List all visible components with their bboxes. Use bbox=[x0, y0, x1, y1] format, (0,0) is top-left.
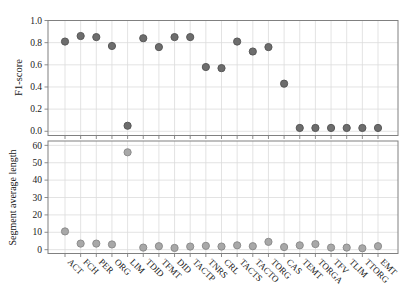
seglen-data-point-FCH bbox=[77, 240, 84, 247]
y-tick-label: 0.8 bbox=[30, 38, 42, 48]
seglen-data-point-TORG bbox=[265, 238, 272, 245]
f1-data-point-TFV bbox=[327, 124, 334, 131]
x-tick-label-FCH: FCH bbox=[81, 257, 101, 277]
y-axis-label-segment-average-length: Segment average length bbox=[7, 141, 20, 254]
f1-data-point-TNRS bbox=[202, 63, 209, 70]
f1-data-point-PER bbox=[93, 34, 100, 41]
x-tick-label-LIM: LIM bbox=[128, 257, 147, 276]
y-tick-label: 30 bbox=[33, 193, 43, 203]
seglen-data-point-CAS bbox=[281, 243, 288, 250]
seglen-data-point-LIM bbox=[124, 149, 131, 156]
seglen-data-point-EMT bbox=[374, 243, 381, 250]
seglen-data-point-TDID bbox=[140, 244, 147, 251]
seglen-data-point-ACT bbox=[61, 228, 68, 235]
seglen-data-point-TACTS bbox=[234, 242, 241, 249]
f1-data-point-ORG bbox=[108, 42, 115, 49]
figure: 1.00.80.60.40.20.06050403020100ACTFCHPER… bbox=[0, 0, 419, 307]
y-tick-label: 0.0 bbox=[30, 126, 42, 136]
f1-data-point-CRL bbox=[218, 65, 225, 72]
y-tick-label: 0.4 bbox=[30, 82, 42, 92]
y-tick-label: 60 bbox=[33, 141, 43, 151]
f1-data-point-FCH bbox=[77, 32, 84, 39]
f1-data-point-TEMT bbox=[296, 124, 303, 131]
seglen-data-point-TLIM bbox=[343, 244, 350, 251]
plot-frame bbox=[48, 21, 398, 136]
y-tick-label: 0 bbox=[37, 245, 42, 255]
f1-data-point-TORGA bbox=[312, 124, 319, 131]
seglen-data-point-DID bbox=[171, 244, 178, 251]
y-tick-label: 10 bbox=[33, 227, 43, 237]
y-tick-label: 0.6 bbox=[30, 60, 42, 70]
y-axis-label-f1-score: F1-score bbox=[13, 20, 26, 135]
f1-data-point-TFMT bbox=[155, 43, 162, 50]
f1-data-point-TORG bbox=[265, 43, 272, 50]
x-tick-label-ACT: ACT bbox=[66, 257, 86, 277]
seglen-data-point-TFMT bbox=[155, 243, 162, 250]
f1-data-point-TLIM bbox=[343, 124, 350, 131]
seglen-data-point-ORG bbox=[108, 241, 115, 248]
seglen-data-point-TTORG bbox=[359, 245, 366, 252]
f1-data-point-TTORG bbox=[359, 124, 366, 131]
seglen-data-point-TFV bbox=[327, 244, 334, 251]
y-tick-label: 20 bbox=[33, 210, 43, 220]
seglen-data-point-CRL bbox=[218, 243, 225, 250]
f1-data-point-ACT bbox=[61, 38, 68, 45]
seglen-data-point-TORGA bbox=[312, 241, 319, 248]
y-tick-label: 0.2 bbox=[30, 104, 42, 114]
f1-data-point-CAS bbox=[281, 80, 288, 87]
seglen-data-point-TNRS bbox=[202, 242, 209, 249]
seglen-data-point-TEMT bbox=[296, 242, 303, 249]
seglen-data-point-TACTP bbox=[187, 243, 194, 250]
chart-canvas: 1.00.80.60.40.20.06050403020100ACTFCHPER… bbox=[0, 0, 419, 307]
seglen-data-point-TACTO bbox=[249, 243, 256, 250]
f1-data-point-TACTP bbox=[187, 34, 194, 41]
y-tick-label: 1.0 bbox=[30, 16, 42, 26]
f1-data-point-TACTS bbox=[234, 38, 241, 45]
seglen-data-point-PER bbox=[93, 240, 100, 247]
f1-data-point-LIM bbox=[124, 122, 131, 129]
y-tick-label: 50 bbox=[33, 158, 43, 168]
f1-data-point-DID bbox=[171, 34, 178, 41]
x-tick-label-PER: PER bbox=[97, 257, 116, 276]
f1-data-point-EMT bbox=[374, 124, 381, 131]
f1-data-point-TACTO bbox=[249, 48, 256, 55]
y-tick-label: 40 bbox=[33, 175, 43, 185]
f1-data-point-TDID bbox=[140, 35, 147, 42]
